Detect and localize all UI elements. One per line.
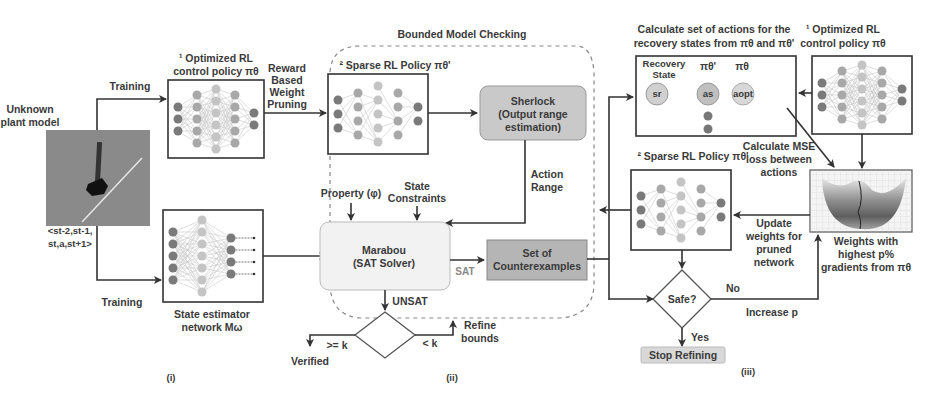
- tuple-label-line2: st,a,st+1>: [48, 238, 92, 249]
- safe-label: Safe?: [668, 293, 697, 305]
- state-estimator-title-line1: State estimator: [174, 308, 250, 320]
- nn-node: [212, 121, 221, 130]
- nn-node: [198, 240, 207, 249]
- nn-node: [838, 115, 847, 124]
- nn-node: [374, 124, 383, 133]
- nn-node: [657, 213, 666, 222]
- nn-node: [677, 206, 686, 215]
- verified-label: Verified: [291, 355, 329, 367]
- nn-node: [227, 270, 236, 279]
- training-label-top: Training: [110, 80, 151, 92]
- dot-1: [704, 112, 713, 121]
- nn-node: [354, 103, 363, 112]
- marabou-line1: Marabou: [362, 244, 406, 256]
- nn-node: [169, 228, 178, 237]
- nn-node: [637, 192, 646, 201]
- nn-node: [231, 139, 240, 148]
- update-weights-line1: Update: [756, 217, 792, 229]
- optimized-policy-title-line1: ¹ Optimized RL: [179, 52, 254, 64]
- nn-node: [394, 89, 403, 98]
- state-constraints-line2: Constraints: [388, 192, 447, 204]
- nn-node: [231, 127, 240, 136]
- nn-node: [858, 109, 867, 118]
- update-weights-line2: weights for: [745, 230, 802, 242]
- weights-grad-line3: gradients from πθ: [821, 261, 911, 273]
- section-ii: Bounded Model Checking ² Sparse RL Polic…: [291, 28, 594, 383]
- nn-node: [858, 61, 867, 70]
- nn-node: [697, 213, 706, 222]
- state-estimator-title-line2: network Mω: [182, 321, 243, 333]
- lt-k-arrow: [415, 321, 453, 335]
- mse-line3: actions: [761, 166, 798, 178]
- nn-node: [637, 206, 646, 215]
- nn-output-dot: [253, 237, 256, 240]
- training-arrow-top: [97, 99, 166, 130]
- nn-node: [838, 79, 847, 88]
- geq-k-label: >= k: [326, 339, 347, 351]
- methodology-diagram: Unknown plant model Training ¹ Optimized…: [0, 0, 946, 405]
- nn-node: [657, 185, 666, 194]
- nn-node: [677, 220, 686, 229]
- nn-node: [898, 97, 907, 106]
- plant-model-image: [46, 130, 150, 226]
- nn-node: [193, 115, 202, 124]
- nn-node: [174, 103, 183, 112]
- node-as-label: as: [703, 88, 714, 99]
- reward-pruning-line4: Pruning: [267, 98, 307, 110]
- counterexamples-line2: Counterexamples: [493, 260, 581, 272]
- nn-node: [193, 91, 202, 100]
- nn-output-dot: [253, 261, 256, 264]
- update-weights-line4: network: [754, 256, 794, 268]
- section-label-ii: (ii): [446, 372, 458, 383]
- nn-node: [169, 240, 178, 249]
- nn-node: [717, 213, 726, 222]
- nn-node: [174, 115, 183, 124]
- nn-node: [231, 115, 240, 124]
- nn-node: [657, 199, 666, 208]
- nn-node: [198, 216, 207, 225]
- nn-node: [334, 124, 343, 133]
- nn-node: [878, 67, 887, 76]
- nn-node: [212, 109, 221, 118]
- nn-node: [394, 131, 403, 140]
- nn-node: [212, 133, 221, 142]
- nn-output-dot: [253, 273, 256, 276]
- sherlock-line1: Sherlock: [511, 95, 556, 107]
- to-recovery-arrow: [609, 97, 633, 300]
- nn-node: [334, 110, 343, 119]
- nn-node: [227, 246, 236, 255]
- nn-node: [858, 97, 867, 106]
- nn-node: [717, 199, 726, 208]
- nn-node: [354, 117, 363, 126]
- nn-node: [697, 227, 706, 236]
- sat-label: SAT: [455, 266, 474, 277]
- nn-node: [169, 264, 178, 273]
- nn-node: [414, 103, 423, 112]
- nn-node: [174, 127, 183, 136]
- nn-node: [374, 110, 383, 119]
- nn-node: [193, 139, 202, 148]
- calc-actions-title-line2: recovery states from πθ and πθ': [634, 37, 795, 49]
- sherlock-line2: (Output range: [498, 108, 568, 120]
- nn-node: [231, 103, 240, 112]
- weights-grad-line1: Weights with: [834, 235, 899, 247]
- nn-node: [198, 228, 207, 237]
- nn-node: [898, 85, 907, 94]
- nn-node: [878, 79, 887, 88]
- mse-line2: loss between: [746, 153, 812, 165]
- property-label: Property (φ): [321, 187, 382, 199]
- plant-label-line1: Unknown: [6, 103, 53, 115]
- node-aopt-label: aopt: [733, 88, 754, 99]
- nn-node: [193, 127, 202, 136]
- node-sr-label: sr: [653, 88, 662, 99]
- nn-node: [198, 252, 207, 261]
- nn-node: [334, 96, 343, 105]
- nn-node: [657, 227, 666, 236]
- nn-node: [697, 185, 706, 194]
- unsat-label: UNSAT: [392, 295, 428, 307]
- counterexamples-line1: Set of: [522, 247, 552, 259]
- pi-theta-prime-label: πθ': [700, 60, 716, 72]
- nn-node: [227, 234, 236, 243]
- reward-pruning-line2: Based: [271, 74, 303, 86]
- nn-node: [169, 276, 178, 285]
